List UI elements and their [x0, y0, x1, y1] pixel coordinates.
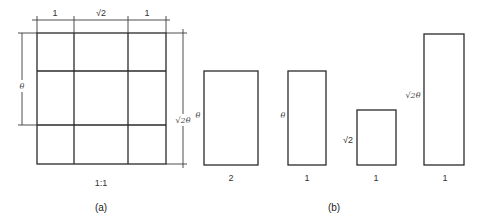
rect-b3 — [357, 110, 396, 165]
caption-a: (a) — [95, 202, 107, 213]
top-dim-label-3: 1 — [144, 8, 149, 18]
left-dim-label: θ — [20, 82, 25, 91]
rect-b2-side-label: θ — [281, 111, 286, 120]
rect-b1 — [204, 71, 258, 165]
top-dim-label-1: 1 — [52, 8, 57, 18]
rect-b2-bottom-label: 1 — [304, 173, 309, 183]
right-dimension — [166, 29, 187, 168]
rect-b3-bottom-label: 1 — [373, 173, 378, 183]
top-dimension — [32, 16, 170, 33]
left-dimension — [18, 33, 37, 125]
top-dim-label-2: √2 — [96, 8, 106, 18]
rect-b1-side-label: θ — [196, 111, 201, 120]
rect-b4 — [424, 34, 464, 165]
caption-b: (b) — [328, 202, 340, 213]
rect-b1-bottom-label: 2 — [228, 173, 233, 183]
right-dim-label: √2θ — [175, 116, 190, 125]
figure-a-grid — [37, 33, 166, 164]
proportion-diagram: 1 √2 1 θ √2θ 1:1 (a) θ 2 θ 1 √2 1 √2θ 1 … — [0, 0, 481, 221]
ratio-label: 1:1 — [95, 178, 108, 188]
rect-b3-side-label: √2 — [343, 135, 353, 145]
rect-b4-bottom-label: 1 — [442, 173, 447, 183]
grid-outline — [37, 33, 166, 164]
rect-b4-side-label: √2θ — [405, 91, 420, 100]
rect-b2 — [288, 71, 326, 165]
